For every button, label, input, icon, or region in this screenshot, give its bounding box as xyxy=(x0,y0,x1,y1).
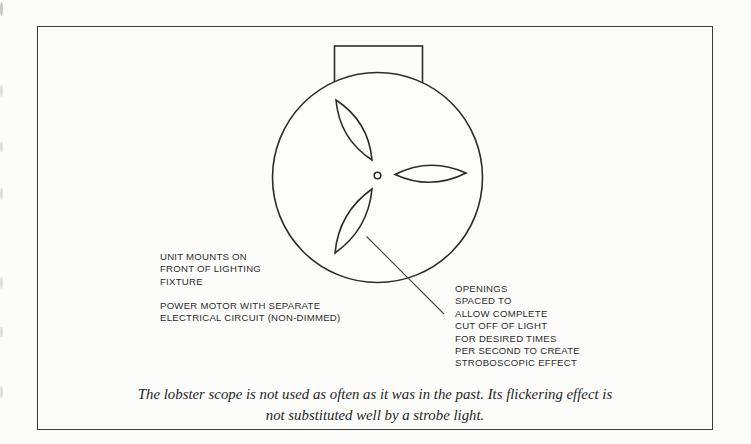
label-power-motor: POWER MOTOR WITH SEPARATE ELECTRICAL CIR… xyxy=(160,300,340,325)
label-unit-mounts: UNIT MOUNTS ON FRONT OF LIGHTING FIXTURE xyxy=(160,251,261,288)
scanned-book-page: UNIT MOUNTS ON FRONT OF LIGHTING FIXTURE… xyxy=(0,0,751,444)
lobster-scope-diagram xyxy=(0,0,751,444)
figure-caption: The lobster scope is not used as often a… xyxy=(37,384,713,426)
label-openings: OPENINGS SPACED TO ALLOW COMPLETE CUT OF… xyxy=(455,283,580,370)
scope-disc-circle xyxy=(273,73,483,283)
